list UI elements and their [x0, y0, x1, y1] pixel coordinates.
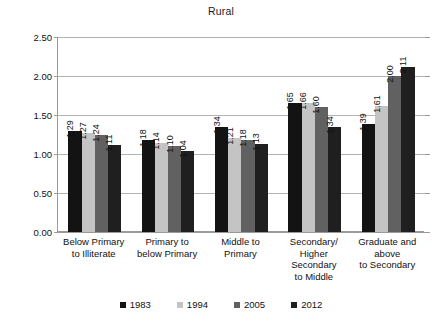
bar-slot: 1.65 — [288, 37, 301, 232]
legend-item-1983[interactable]: 1983 — [120, 299, 151, 310]
legend-swatch-icon — [120, 302, 126, 308]
legend-label: 1983 — [130, 299, 151, 310]
chart-title: Rural — [0, 5, 442, 17]
bar-value-label: 1.34 — [213, 117, 222, 135]
bar-value-label: 1.39 — [359, 113, 368, 131]
bar-value-label: 1.27 — [79, 122, 88, 140]
bar-slot: 1.13 — [255, 37, 268, 232]
y-axis-tick-label: 0.00 — [34, 227, 53, 238]
bar[interactable]: 1.39 — [362, 124, 375, 232]
legend-label: 2005 — [244, 299, 265, 310]
bar-value-label: 1.29 — [66, 121, 75, 139]
category-label-2: Primary to below Primary — [130, 236, 203, 282]
bar[interactable]: 1.61 — [375, 106, 388, 232]
bar[interactable]: 2.11 — [401, 67, 414, 232]
bar-slot: 2.11 — [401, 37, 414, 232]
bar-value-label: 1.14 — [152, 132, 161, 150]
bar-slot: 1.10 — [168, 37, 181, 232]
category-label-5: Graduate and above to Secondary — [351, 236, 424, 282]
legend-item-2005[interactable]: 2005 — [234, 299, 265, 310]
plot-area: 0.000.501.001.502.002.50 1.291.271.241.1… — [57, 37, 424, 232]
axis-tick-right — [425, 154, 430, 155]
legend-label: 2012 — [301, 299, 322, 310]
axis-tick-right — [425, 76, 430, 77]
bar-group: 1.291.271.241.11 — [58, 37, 131, 232]
legend-label: 1994 — [187, 299, 208, 310]
bar-value-label: 1.18 — [139, 129, 148, 147]
bar[interactable]: 1.21 — [228, 138, 241, 232]
bar-slot: 1.39 — [362, 37, 375, 232]
axis-tick-left — [54, 232, 58, 233]
bar-slot: 1.34 — [328, 37, 341, 232]
bar[interactable]: 1.13 — [255, 144, 268, 232]
bar-value-label: 1.18 — [239, 129, 248, 147]
y-axis-tick-label: 2.00 — [34, 71, 53, 82]
legend-swatch-icon — [177, 302, 183, 308]
bar-value-label: 1.60 — [312, 96, 321, 114]
bar-value-label: 2.11 — [399, 57, 408, 74]
bar-group: 1.341.211.181.13 — [205, 37, 278, 232]
chart-legend: 1983199420052012 — [0, 299, 442, 310]
bar[interactable]: 1.10 — [168, 146, 181, 232]
legend-item-2012[interactable]: 2012 — [291, 299, 322, 310]
bar[interactable]: 1.65 — [288, 103, 301, 232]
bar-group: 1.181.141.101.04 — [131, 37, 204, 232]
bar-value-label: 1.04 — [179, 140, 188, 158]
bar[interactable]: 1.29 — [68, 131, 81, 232]
bar[interactable]: 1.27 — [82, 133, 95, 232]
bar-slot: 1.60 — [315, 37, 328, 232]
bar-group: 1.651.661.601.34 — [278, 37, 351, 232]
axis-tick-right — [425, 115, 430, 116]
bar-group: 1.391.612.002.11 — [352, 37, 425, 232]
chart-container: Rural 0.000.501.001.502.002.50 1.291.271… — [0, 0, 442, 327]
category-label-1: Below Primary to Illiterate — [57, 236, 130, 282]
category-label-4: Secondary/ Higher Secondary to Middle — [277, 236, 350, 282]
axis-tick-right — [425, 193, 430, 194]
y-axis-tick-label: 1.00 — [34, 149, 53, 160]
bar[interactable]: 1.66 — [302, 103, 315, 232]
bar[interactable]: 1.14 — [155, 143, 168, 232]
bar-value-label: 1.66 — [299, 92, 308, 110]
bar-slot: 1.04 — [181, 37, 194, 232]
bar-value-label: 1.65 — [286, 93, 295, 111]
legend-item-1994[interactable]: 1994 — [177, 299, 208, 310]
bar[interactable]: 1.04 — [181, 151, 194, 232]
bar-value-label: 2.00 — [386, 65, 395, 83]
bar[interactable]: 1.34 — [328, 127, 341, 232]
legend-swatch-icon — [291, 302, 297, 308]
bar-slot: 1.11 — [108, 37, 121, 232]
bar[interactable]: 1.18 — [241, 140, 254, 232]
gridline — [58, 232, 425, 233]
category-axis-labels: Below Primary to IlliteratePrimary to be… — [57, 236, 424, 282]
bar-slot: 1.66 — [302, 37, 315, 232]
bar-value-label: 1.61 — [373, 96, 382, 114]
bar[interactable]: 1.18 — [142, 140, 155, 232]
bar-value-label: 1.10 — [166, 135, 175, 153]
category-label-3: Middle to Primary — [204, 236, 277, 282]
bar-value-label: 1.11 — [105, 135, 114, 152]
bar[interactable]: 2.00 — [388, 76, 401, 232]
bar-value-label: 1.34 — [326, 117, 335, 135]
bars-layer: 1.291.271.241.111.181.141.101.041.341.21… — [58, 37, 425, 232]
bar[interactable]: 1.11 — [108, 145, 121, 232]
legend-swatch-icon — [234, 302, 240, 308]
bar-value-label: 1.24 — [92, 125, 101, 143]
axis-tick-right — [425, 37, 430, 38]
y-axis-tick-label: 2.50 — [34, 32, 53, 43]
bar-value-label: 1.21 — [226, 127, 235, 145]
axis-tick-right — [425, 232, 430, 233]
y-axis-tick-label: 0.50 — [34, 188, 53, 199]
bar-value-label: 1.13 — [252, 133, 261, 151]
y-axis-tick-label: 1.50 — [34, 110, 53, 121]
